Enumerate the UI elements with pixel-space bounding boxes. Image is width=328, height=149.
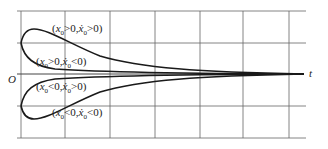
response-diagram (0, 0, 328, 149)
label-text: <0) (87, 106, 102, 118)
label-text: <0) (71, 55, 86, 67)
origin-label: O (8, 73, 16, 85)
label-pos-pos: (x0>0,ẋ0>0) (52, 22, 102, 39)
label-neg-neg: (x0<0,ẋ0<0) (52, 106, 102, 123)
label-text: >0) (87, 22, 102, 34)
label-neg-pos: (x0<0,ẋ0>0) (36, 80, 86, 97)
t-axis-label: t (309, 67, 312, 79)
label-text: >0, (64, 22, 78, 34)
label-text: >0) (71, 80, 86, 92)
label-text: <0, (48, 80, 62, 92)
label-pos-neg: (x0>0,ẋ0<0) (36, 55, 86, 72)
label-text: >0, (48, 55, 62, 67)
label-text: <0, (64, 106, 78, 118)
